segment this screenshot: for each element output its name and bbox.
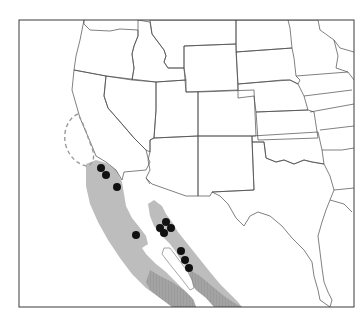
occurrence-point bbox=[132, 231, 140, 239]
occurrence-point bbox=[167, 224, 175, 232]
occurrence-point bbox=[177, 247, 185, 255]
occurrence-point bbox=[97, 164, 105, 172]
occurrence-point bbox=[102, 171, 110, 179]
occurrence-point bbox=[185, 264, 193, 272]
occurrence-point bbox=[181, 256, 189, 264]
range-map bbox=[0, 0, 362, 316]
occurrence-point bbox=[113, 183, 121, 191]
map-canvas bbox=[0, 0, 362, 316]
state-boundaries bbox=[72, 20, 354, 307]
occurrence-point bbox=[160, 229, 168, 237]
